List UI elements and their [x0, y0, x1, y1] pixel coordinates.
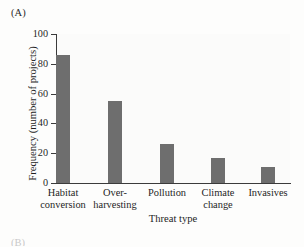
- y-tick-label-20: 20: [8, 148, 48, 158]
- y-tick-label-100: 100: [8, 29, 48, 39]
- y-tick-label-80: 80: [8, 59, 48, 69]
- y-tick-label-60: 60: [8, 89, 48, 99]
- bar-climate-change: [211, 158, 225, 183]
- x-tick-label-line-2: harvesting: [69, 199, 161, 211]
- bar-habitat-conversion: [56, 55, 70, 183]
- x-axis-title: Threat type: [56, 213, 290, 224]
- bar-pollution: [160, 144, 174, 183]
- x-tick-label-line-2: change: [172, 199, 264, 211]
- x-tick-label-line-1: Invasives: [248, 187, 287, 198]
- bar-invasives: [261, 167, 275, 183]
- y-tick-mark-100: [51, 34, 56, 35]
- x-tick-label-invasives: Invasives: [222, 187, 304, 199]
- y-tick-label-40: 40: [8, 118, 48, 128]
- y-tick-mark-0: [51, 183, 56, 184]
- panel-label-b: (B): [11, 237, 25, 246]
- bar-over-harvesting: [108, 101, 122, 183]
- panel-label-a: (A): [11, 7, 26, 18]
- x-axis-line: [56, 183, 291, 184]
- figure-panel-a: (A) Frequency (number of projects) 100 8…: [0, 0, 304, 247]
- y-axis-title: Frequency (number of projects): [27, 34, 38, 194]
